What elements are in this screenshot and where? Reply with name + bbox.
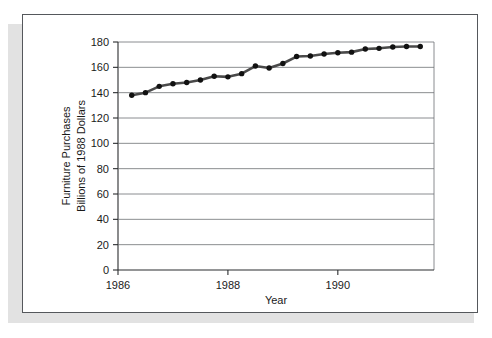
data-point-4 xyxy=(184,80,189,85)
data-point-8 xyxy=(239,71,244,76)
data-series-furniture-purchases xyxy=(129,44,423,98)
plot-frame xyxy=(118,42,434,270)
x-axis-ticks: 198619881990 xyxy=(106,270,350,291)
x-tick-label-1990: 1990 xyxy=(326,279,350,291)
data-point-3 xyxy=(170,81,175,86)
data-point-16 xyxy=(349,49,354,54)
y-tick-label-140: 140 xyxy=(91,87,109,99)
data-point-17 xyxy=(363,46,368,51)
y-tick-label-100: 100 xyxy=(91,137,109,149)
line-chart: 020406080100120140160180 198619881990 Fu… xyxy=(23,15,479,314)
data-point-12 xyxy=(294,54,299,59)
x-tick-label-1988: 1988 xyxy=(216,279,240,291)
y-tick-label-20: 20 xyxy=(97,239,109,251)
data-point-5 xyxy=(198,77,203,82)
data-point-6 xyxy=(211,74,216,79)
y-tick-label-0: 0 xyxy=(103,264,109,276)
chart-svg: 020406080100120140160180 198619881990 Fu… xyxy=(23,15,479,314)
horizontal-gridlines xyxy=(118,67,434,244)
y-tick-label-120: 120 xyxy=(91,112,109,124)
y-tick-label-60: 60 xyxy=(97,188,109,200)
data-point-19 xyxy=(390,44,395,49)
y-axis-title: Furniture Purchases Billions of 1988 Dol… xyxy=(60,100,87,212)
series-markers xyxy=(129,44,423,98)
data-point-2 xyxy=(157,84,162,89)
data-point-0 xyxy=(129,93,134,98)
data-point-20 xyxy=(404,44,409,49)
y-axis-title-line2: Billions of 1988 Dollars xyxy=(75,100,87,212)
data-point-1 xyxy=(143,90,148,95)
y-axis-ticks: 020406080100120140160180 xyxy=(91,36,118,276)
series-line-path xyxy=(132,46,421,95)
y-axis-title-line1: Furniture Purchases xyxy=(60,106,72,206)
y-tick-label-80: 80 xyxy=(97,163,109,175)
data-point-13 xyxy=(308,53,313,58)
data-point-18 xyxy=(376,46,381,51)
data-point-11 xyxy=(280,61,285,66)
y-tick-label-40: 40 xyxy=(97,213,109,225)
y-tick-label-160: 160 xyxy=(91,61,109,73)
data-point-10 xyxy=(266,65,271,70)
data-point-21 xyxy=(418,44,423,49)
figure-frame: 020406080100120140160180 198619881990 Fu… xyxy=(22,14,478,313)
x-axis-title: Year xyxy=(265,294,288,306)
figure-root: 020406080100120140160180 198619881990 Fu… xyxy=(0,0,492,338)
data-point-14 xyxy=(321,51,326,56)
data-point-9 xyxy=(253,63,258,68)
x-tick-label-1986: 1986 xyxy=(106,279,130,291)
data-point-7 xyxy=(225,74,230,79)
data-point-15 xyxy=(335,50,340,55)
y-tick-label-180: 180 xyxy=(91,36,109,48)
